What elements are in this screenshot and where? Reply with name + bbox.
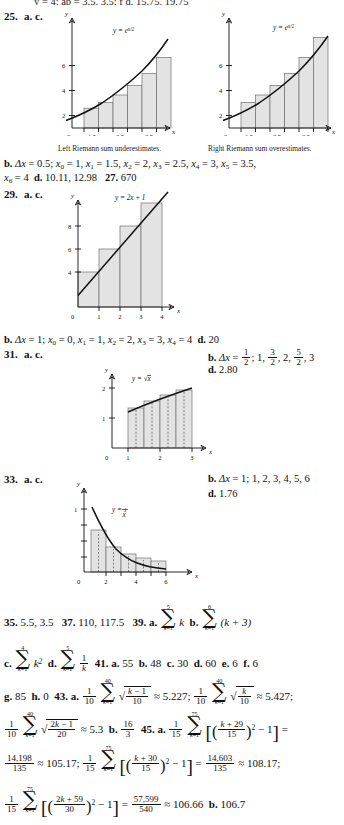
problem-39-number: 39. [132,616,146,628]
problem-41-h-label: h. [32,690,41,702]
answer-key-page: y = 4; ab = 3.5, 3.5; f d. 15.75, 19.75 … [0,0,344,825]
svg-text:y = ex/2: y = ex/2 [112,26,135,35]
svg-text:y: y [221,10,226,18]
problem-39-d-prefix: d. [48,657,57,669]
svg-text:4: 4 [219,87,223,94]
svg-text:1.5: 1.5 [245,133,254,136]
svg-text:1: 1 [102,415,105,422]
problem-41-e-label: e. [222,657,230,669]
problem-25-parts-label: a. c. [24,10,43,22]
sum-39c: 4 ∑ k=1 [15,645,30,672]
caption-right-riemann: Right Riemann sum overestimates. [208,144,311,153]
problem-41-b-value: 48 [150,657,161,669]
svg-text:1: 1 [126,454,129,461]
expr-45-3-approx: ≈ 106.66 [164,798,203,810]
svg-text:y: y [70,192,75,200]
sum-39b-body: (k + 3) [221,616,252,628]
problem-45-b-value: 106.7 [220,798,245,810]
svg-text:0: 0 [77,578,81,585]
svg-text:x: x [171,128,176,136]
svg-text:y: y [64,10,69,18]
problem-39-b-prefix: b. [190,616,199,628]
svg-text:2.5: 2.5 [116,133,125,136]
svg-text:x: x [331,128,336,136]
sum-39b: 6 ∑ k=1 [202,604,217,631]
sum-39d: 5 ∑ k=1 [60,645,75,672]
sum-43-2: 40∑k=1 [212,678,227,705]
svg-text:8: 8 [68,223,72,230]
svg-text:2: 2 [118,313,121,320]
svg-text:y: y [76,480,81,488]
problem-41-e-value: 6 [232,657,238,669]
problem-33-number: 33. [4,473,18,485]
expr-45-3-coef: 115 [5,795,18,815]
problem-43-b-prefix: b. [109,723,118,735]
caption-left-riemann: Left Riemann sum underestimates. [58,144,161,153]
sum-39a: 5 ∑ k=1 [161,604,176,631]
sum-39a-body: k [179,616,184,628]
problem-41-a-label: a. [111,657,119,669]
problem-41-g-value: 85 [15,690,26,702]
chart-reciprocal-riemann: 1 2 4 6 0 x y y = 1 x [60,470,205,590]
chart-linear-riemann: 4 6 8 1 2 3 4 0 x y y = 2x + 1 [58,186,188,322]
problem-41gh-43-line: g. 85 h. 0 43. a. 110 40∑k=1 √k − 110 ≈ … [4,678,293,707]
problem-41-c-value: 30 [177,657,188,669]
svg-text:x: x [194,572,199,580]
sum-45-2: 75∑k=1 [101,745,116,772]
svg-text:2.5: 2.5 [273,133,282,136]
problem-39cd-41-line: c. 4 ∑ k=1 k2 d. 5 ∑ k=1 1k 41. a. 55 b.… [4,645,258,674]
problem-45-b-prefix: b. [209,798,218,810]
svg-text:1: 1 [74,506,77,513]
problem-25-answer-d: x6 = 4 d. 10.11, 12.98 27. 670 [4,172,137,185]
problem-45-line3: 115 75∑k=1 [(2k + 5930)2 − 1] = 57,59954… [4,786,245,817]
problem-41-h-value: 0 [43,690,49,702]
clipped-top-line: y = 4; ab = 3.5, 3.5; f d. 15.75, 19.75 [0,0,344,5]
problem-29-parts-label: a. c. [24,188,43,200]
problem-41-f-value: 6 [252,657,258,669]
svg-text:0: 0 [224,133,228,136]
svg-text:4: 4 [62,87,66,94]
sum-45-1: 75∑k=1 [187,711,202,738]
problem-25-number: 25. [4,10,18,22]
sum-39c-body: k2 [34,657,43,669]
svg-text:y = 2x + 1: y = 2x + 1 [114,194,145,202]
svg-text:6: 6 [164,578,168,585]
sum-39d-body: 1k [80,654,89,674]
expr-45-1-result: 14,198135 [5,754,34,774]
sum-43-3: 40∑k=1 [23,711,38,738]
expr-43-3-approx: ≈ 5.3 [81,723,104,735]
problem-41-f-label: f. [243,657,249,669]
problem-41-c-label: c. [167,657,175,669]
problem-41-g-label: g. [4,690,12,702]
sum-43-1: 40∑k=1 [100,678,115,705]
problem-41-d-label: d. [194,657,203,669]
problem-29-number: 29. [4,188,18,200]
expr-45-2-coef: 115 [83,754,96,774]
svg-text:y = ex/2: y = ex/2 [272,23,295,32]
svg-text:0: 0 [71,313,75,320]
problem-45-a-prefix: a. [157,723,165,735]
expr-45-1-coef: 115 [169,720,182,740]
expr-45-1-approx: ≈ 105.17; [38,757,80,769]
problem-37-number: 37. [62,616,76,628]
problem-45-line2: 14,198135 ≈ 105.17; 115 75∑k=1 [(k + 301… [4,745,280,776]
problem-33-answer-d: d. 1.76 [208,488,237,499]
expr-43-3-coef: 110 [5,720,18,740]
svg-text:0: 0 [105,454,109,461]
svg-text:6: 6 [68,246,72,253]
svg-text:x: x [208,448,213,456]
expr-43-1-approx: ≈ 5.227; [154,690,191,702]
svg-text:y: y [104,366,109,374]
problem-39-c-prefix: c. [4,657,12,669]
problem-43-a-prefix: a. [71,690,79,702]
svg-text:2: 2 [104,578,107,585]
problem-41-a-value: 55 [122,657,133,669]
problem-41-number: 41. [95,657,109,669]
problem-43-number: 43. [54,690,68,702]
problem-35-answer: 5.5, 3.5 [21,616,54,628]
svg-text:4: 4 [68,269,72,276]
problem-43-cont-45-line: 110 40∑k=1 √2k − 120 ≈ 5.3 b. 163 45. a.… [4,711,288,742]
svg-text:2: 2 [62,112,65,119]
expr-45-3-result: 57,599540 [132,795,161,815]
problem-27-answer: 670 [121,172,137,183]
